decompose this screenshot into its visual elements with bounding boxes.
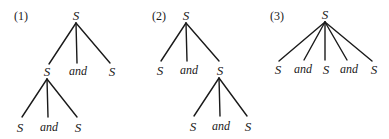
tree-1-child-1: S — [44, 65, 51, 78]
tree-3-child-3: S — [323, 63, 330, 76]
tree-2-child-1: S — [157, 64, 164, 77]
tree-3-child-4: and — [340, 63, 358, 75]
tree-2-root: S — [183, 9, 190, 22]
tree-1-grandchild-3: S — [75, 121, 82, 134]
tree-1-child-2: and — [69, 65, 87, 77]
tree-3-child-1: S — [275, 63, 282, 76]
tree-3-label: (3) — [270, 10, 284, 22]
tree-1-grandchild-1: S — [17, 121, 24, 134]
tree-3-edges — [279, 22, 372, 61]
tree-1-label: (1) — [14, 10, 28, 22]
tree-2-child-2: and — [180, 64, 198, 76]
tree-2-grandchild-3: S — [245, 120, 252, 133]
tree-1-child-3: S — [109, 65, 116, 78]
tree-3-root: S — [322, 8, 329, 21]
tree-2-child-3: S — [217, 64, 224, 77]
tree-2-grandchild-1: S — [190, 120, 197, 133]
tree-1-grandchild-2: and — [40, 121, 58, 133]
tree-1-root: S — [73, 9, 80, 22]
tree-2-edges — [161, 23, 247, 116]
tree-2-grandchild-2: and — [212, 120, 230, 132]
tree-2-label: (2) — [152, 10, 166, 22]
tree-1-edges — [22, 23, 110, 117]
tree-3-child-5: S — [371, 63, 378, 76]
tree-3-child-2: and — [294, 63, 312, 75]
